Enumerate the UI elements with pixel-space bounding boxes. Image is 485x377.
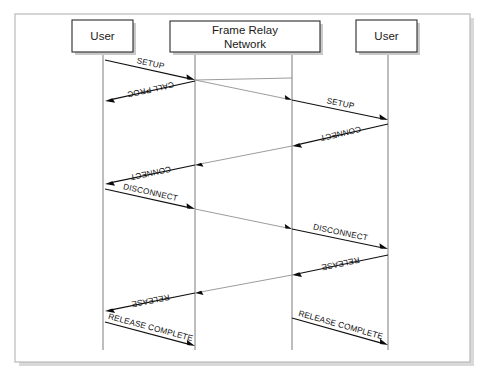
actor-label-network: Frame Relay <box>212 24 278 36</box>
actor-label-user-right: User <box>374 30 398 42</box>
actor-user-left[interactable]: User <box>72 20 136 55</box>
actor-network[interactable]: Frame RelayNetwork <box>170 21 323 55</box>
diagram-canvas: SETUPSETUPCALL PROCCONNECTCONNECTDISCONN… <box>0 0 485 377</box>
actor-user-right[interactable]: User <box>356 20 420 55</box>
actor-label-network-line2: Network <box>224 38 266 50</box>
sequence-diagram: SETUPSETUPCALL PROCCONNECTCONNECTDISCONN… <box>0 0 485 377</box>
frame-border <box>15 14 470 362</box>
outer-frame <box>15 14 474 366</box>
actor-label-user-left: User <box>90 30 114 42</box>
actors-group: UserFrame RelayNetworkUser <box>72 20 420 55</box>
